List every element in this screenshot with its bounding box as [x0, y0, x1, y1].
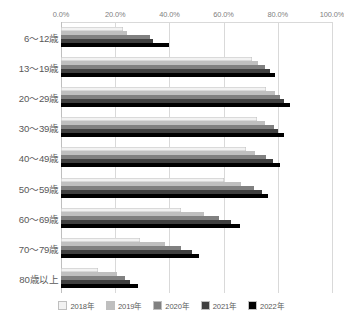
category-row: 40〜49歳 — [0, 142, 343, 172]
y-axis-category-label: 13〜19歳 — [0, 61, 59, 75]
y-axis-category-label: 70〜79歳 — [0, 242, 59, 256]
chart-legend: 2018年2019年2020年2021年2022年 — [0, 298, 343, 312]
x-tick-label: 100.0% — [320, 9, 344, 21]
legend-label: 2021年 — [213, 300, 237, 311]
y-axis-category-label: 60〜69歳 — [0, 212, 59, 226]
bar-group — [61, 173, 332, 203]
legend-label: 2020年 — [165, 300, 189, 311]
bar — [61, 284, 138, 288]
bar — [61, 254, 199, 258]
bar-group — [61, 263, 332, 293]
category-row: 50〜59歳 — [0, 173, 343, 203]
legend-label: 2018年 — [70, 300, 94, 311]
category-row: 70〜79歳 — [0, 233, 343, 263]
bar-group — [61, 82, 332, 112]
category-rows: 6〜12歳13〜19歳20〜29歳30〜39歳40〜49歳50〜59歳60〜69… — [0, 22, 343, 293]
bar-group — [61, 142, 332, 172]
y-axis-category-label: 80歳以上 — [0, 272, 59, 286]
legend-swatch-icon — [106, 301, 115, 310]
bar-group — [61, 52, 332, 82]
legend-item[interactable]: 2022年 — [248, 300, 284, 311]
y-axis-category-label: 20〜29歳 — [0, 91, 59, 105]
x-tick-label: 20.0% — [105, 9, 125, 21]
category-row: 80歳以上 — [0, 263, 343, 293]
x-tick-label: 40.0% — [159, 9, 179, 21]
x-axis-tick-labels: 0.0%20.0%40.0%60.0%80.0%100.0% — [0, 9, 343, 21]
legend-item[interactable]: 2018年 — [58, 300, 94, 311]
category-row: 6〜12歳 — [0, 22, 343, 52]
bar-group — [61, 22, 332, 52]
legend-label: 2019年 — [118, 300, 142, 311]
bar — [61, 163, 280, 167]
x-tick-label: 80.0% — [268, 9, 288, 21]
legend-swatch-icon — [248, 301, 257, 310]
x-tick-label: 0.0% — [53, 9, 69, 21]
y-axis-category-label: 30〜39歳 — [0, 121, 59, 135]
legend-item[interactable]: 2020年 — [153, 300, 189, 311]
legend-swatch-icon — [58, 301, 67, 310]
y-axis-category-label: 50〜59歳 — [0, 182, 59, 196]
bar — [61, 194, 268, 198]
category-row: 60〜69歳 — [0, 203, 343, 233]
y-axis-category-label: 6〜12歳 — [0, 31, 59, 45]
category-row: 13〜19歳 — [0, 52, 343, 82]
bar — [61, 103, 290, 107]
legend-swatch-icon — [153, 301, 162, 310]
bar — [61, 133, 284, 137]
legend-item[interactable]: 2019年 — [106, 300, 142, 311]
category-row: 20〜29歳 — [0, 82, 343, 112]
legend-item[interactable]: 2021年 — [201, 300, 237, 311]
bar-group — [61, 112, 332, 142]
bar — [61, 224, 240, 228]
bar-group — [61, 203, 332, 233]
category-row: 30〜39歳 — [0, 112, 343, 142]
bar — [61, 73, 275, 77]
x-tick-label: 60.0% — [213, 9, 233, 21]
legend-swatch-icon — [201, 301, 210, 310]
bar-group — [61, 233, 332, 263]
legend-label: 2022年 — [260, 300, 284, 311]
bar — [61, 43, 169, 47]
y-axis-category-label: 40〜49歳 — [0, 151, 59, 165]
